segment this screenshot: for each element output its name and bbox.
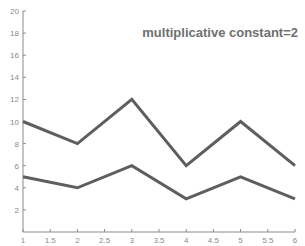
x-tick-label: 1.5 [45,236,57,245]
y-tick-label: 8 [15,140,20,149]
x-tick-label: 5.5 [262,236,274,245]
chart-title: multiplicative constant=2 [142,25,298,40]
y-tick-label: 10 [10,118,19,127]
x-tick-label: 2.5 [99,236,111,245]
x-tick-label: 5 [238,236,243,245]
y-tick-label: 12 [10,95,19,104]
x-tick-label: 4.5 [208,236,220,245]
x-tick-label: 2 [75,236,80,245]
x-tick-label: 1 [21,236,26,245]
line-chart: 246810121416182011.522.533.544.555.56 mu… [0,0,305,246]
y-tick-label: 20 [10,7,19,16]
series-line-original [23,166,295,199]
y-tick-label: 18 [10,29,19,38]
y-tick-label: 16 [10,51,19,60]
x-tick-label: 4 [184,236,189,245]
x-tick-label: 3 [130,236,135,245]
series-group [23,99,295,198]
y-tick-label: 6 [15,162,20,171]
x-tick-label: 3.5 [153,236,165,245]
y-tick-label: 14 [10,73,19,82]
x-tick-label: 6 [293,236,298,245]
y-tick-label: 4 [15,184,20,193]
y-tick-label: 2 [15,206,20,215]
series-line-scaled [23,99,295,165]
